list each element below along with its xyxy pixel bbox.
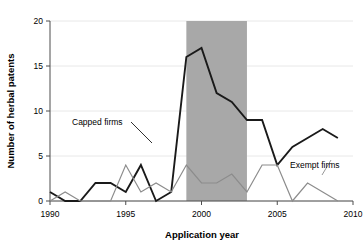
- x-tick-label-1995: 1995: [116, 209, 135, 219]
- exempt-firms-label: Exempt firms: [290, 160, 340, 170]
- x-axis-title: Application year: [165, 229, 239, 240]
- shaded-period-rect: [186, 21, 247, 201]
- y-tick-label-15: 15: [34, 61, 44, 71]
- y-tick-label-10: 10: [34, 106, 44, 116]
- y-tick-label-5: 5: [38, 151, 43, 161]
- y-tick-label-20: 20: [34, 16, 44, 26]
- x-tick-label-2000: 2000: [192, 209, 211, 219]
- y-axis-title: Number of herbal patents: [5, 53, 16, 168]
- shaded-period-region: [186, 21, 247, 201]
- y-tick-label-0: 0: [38, 196, 43, 206]
- chart-figure: 05101520 19901995200020052010 Capped fir…: [0, 0, 364, 250]
- herbal-patents-line-chart: 05101520 19901995200020052010 Capped fir…: [0, 0, 364, 250]
- x-tick-label-1990: 1990: [41, 209, 60, 219]
- x-tick-label-2010: 2010: [344, 209, 363, 219]
- capped-firms-label: Capped firms: [72, 117, 123, 127]
- x-tick-label-2005: 2005: [268, 209, 287, 219]
